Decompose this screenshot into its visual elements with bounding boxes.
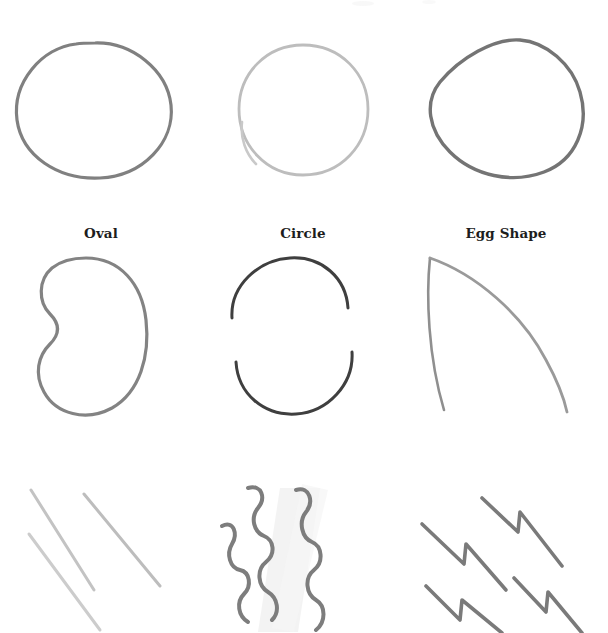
shape-cell-wave-shape[interactable]: Wave Shape — [404, 252, 608, 422]
shape-cell-curved-lines[interactable]: Curved Lines — [202, 252, 404, 422]
squiggly-lines-drawing — [202, 482, 404, 633]
egg-shape-drawing — [404, 30, 608, 190]
shape-label-circle: Circle — [202, 225, 404, 241]
wave-shape-drawing — [404, 252, 608, 422]
diagonal-lines-drawing — [0, 482, 202, 633]
shape-cell-egg-shape[interactable]: Egg Shape — [404, 30, 608, 190]
bean-shape-drawing — [0, 252, 202, 422]
shapes-reference-sheet: Oval Circle Egg Shape Bean Shape — [0, 0, 608, 633]
shape-cell-straight-diagonal-lines[interactable] — [0, 482, 202, 633]
shape-cell-oval[interactable]: Oval — [0, 30, 202, 190]
shape-label-egg-shape: Egg Shape — [404, 225, 608, 241]
shape-cell-bean-shape[interactable]: Bean Shape — [0, 252, 202, 422]
shape-cell-circle[interactable]: Circle — [202, 30, 404, 190]
shape-cell-zigzag-lines[interactable] — [404, 482, 608, 633]
oval-shape-drawing — [0, 30, 202, 190]
curved-lines-drawing — [202, 252, 404, 422]
shape-cell-squiggly-lines[interactable] — [202, 482, 404, 633]
zigzag-lines-drawing — [404, 482, 608, 633]
circle-shape-drawing — [202, 30, 404, 190]
shape-label-oval: Oval — [0, 225, 202, 241]
